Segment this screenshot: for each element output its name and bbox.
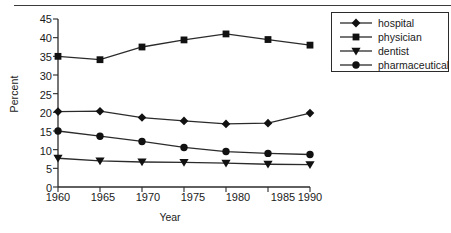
x-axis-ticks [58,187,310,192]
data-point-pharmaceutical [180,144,187,151]
data-point-pharmaceutical [96,133,103,140]
data-point-physician [307,42,314,49]
data-point-hospital [222,120,231,129]
legend-marker-diamond [338,16,374,30]
data-point-hospital [54,107,63,116]
data-point-physician [265,36,272,43]
series-pharmaceutical [54,127,313,158]
legend-item-dentist: dentist [332,44,450,58]
data-point-hospital [306,109,315,118]
legend-label-physician: physician [378,31,422,43]
data-point-hospital [264,119,273,128]
data-point-hospital [138,113,147,122]
legend-item-hospital: hospital [332,16,450,30]
data-point-physician [97,56,104,63]
data-series-layer [53,31,314,169]
legend-label-pharmaceutical: pharmaceutical [378,59,449,71]
series-dentist [53,155,314,169]
legend-marker-circle [338,58,374,72]
series-physician [55,31,314,64]
chart-figure: Percent Year 45 40 35 30 25 20 15 10 5 0… [0,0,451,233]
data-point-physician [55,53,62,60]
legend-item-pharmaceutical: pharmaceutical [332,58,450,72]
data-point-physician [139,44,146,51]
legend-label-dentist: dentist [378,45,409,57]
y-axis-ticks [53,19,58,187]
data-point-hospital [180,117,189,126]
data-point-hospital [96,107,105,116]
data-point-pharmaceutical [138,138,145,145]
series-hospital [54,107,315,128]
data-point-pharmaceutical [222,148,229,155]
legend-label-hospital: hospital [378,17,414,29]
chart-legend: hospital physician dentist pharmaceutica… [331,12,449,72]
legend-item-physician: physician [332,30,450,44]
data-point-physician [223,31,230,38]
legend-marker-square [338,30,374,44]
data-point-pharmaceutical [264,150,271,157]
data-point-pharmaceutical [54,127,61,134]
legend-marker-triangle-down [338,44,374,58]
data-point-pharmaceutical [306,151,313,158]
data-point-physician [181,37,188,44]
